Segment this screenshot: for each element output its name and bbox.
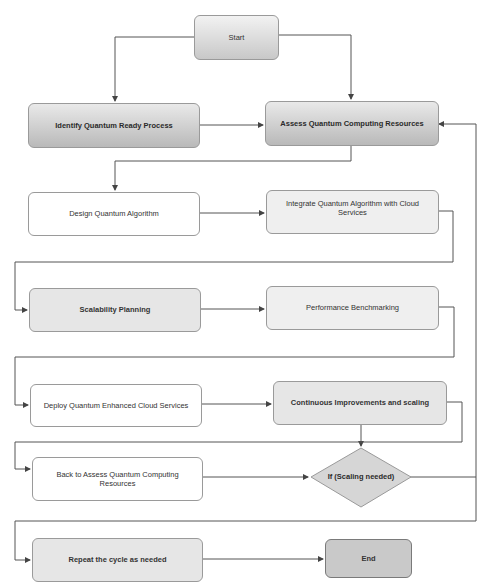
edge-start-assess xyxy=(279,35,351,99)
design-quantum-algorithm-node: Design Quantum Algorithm xyxy=(28,192,200,236)
repeat-cycle-node: Repeat the cycle as needed xyxy=(32,538,203,582)
integrate-label: Integrate Quantum Algorithm with Cloud S… xyxy=(275,199,430,218)
continuous-label: Continuous Improvements and scaling xyxy=(291,398,429,407)
back-label: Back to Assess Quantum Computing Resourc… xyxy=(51,470,184,489)
start-label: Start xyxy=(229,33,245,42)
continuous-improvements-node: Continuous Improvements and scaling xyxy=(273,381,447,425)
integrate-quantum-algorithm-node: Integrate Quantum Algorithm with Cloud S… xyxy=(266,190,439,234)
identify-label: Identify Quantum Ready Process xyxy=(55,121,173,130)
design-label: Design Quantum Algorithm xyxy=(69,209,159,218)
scalability-planning-node: Scalability Planning xyxy=(29,288,201,332)
deploy-quantum-enhanced-cloud-services-node: Deploy Quantum Enhanced Cloud Services xyxy=(30,384,202,427)
scalability-label: Scalability Planning xyxy=(80,305,151,314)
performance-benchmarking-node: Performance Benchmarking xyxy=(266,286,439,330)
assess-quantum-computing-resources-node: Assess Quantum Computing Resources xyxy=(265,101,439,146)
end-label: End xyxy=(361,554,375,563)
decision-label: If (Scaling needed) xyxy=(311,472,411,481)
edge-assess-design xyxy=(115,146,351,190)
assess-label: Assess Quantum Computing Resources xyxy=(280,119,423,128)
end-node: End xyxy=(325,539,412,578)
identify-quantum-ready-process-node: Identify Quantum Ready Process xyxy=(28,103,200,148)
deploy-label: Deploy Quantum Enhanced Cloud Services xyxy=(44,401,189,410)
back-to-assess-node: Back to Assess Quantum Computing Resourc… xyxy=(32,457,203,501)
start-node: Start xyxy=(194,15,279,60)
performance-label: Performance Benchmarking xyxy=(306,303,399,312)
edge-start-identify xyxy=(115,37,194,101)
repeat-label: Repeat the cycle as needed xyxy=(69,555,167,564)
